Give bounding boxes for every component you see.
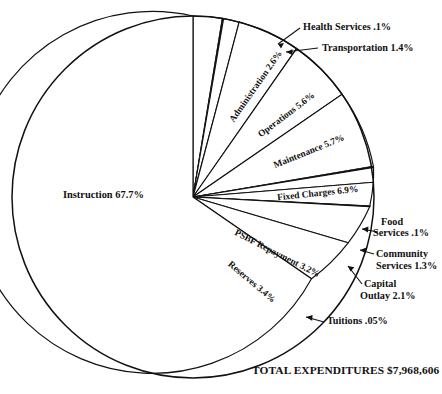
- callout-label-tuitions: Tuitions .05%: [327, 315, 388, 327]
- callout-label-food-services-line1: Food: [381, 216, 403, 228]
- callout-label-transportation: Transportation 1.4%: [322, 42, 414, 54]
- arrowhead-food-services: [362, 227, 368, 233]
- callout-label-food-services-line2: Services .1%: [373, 227, 429, 239]
- arrowhead-community-services: [360, 248, 366, 254]
- callout-label-health-services: Health Services .1%: [303, 21, 391, 33]
- total-expenditures-label: TOTAL EXPENDITURES $7,968,606: [252, 364, 439, 376]
- callout-label-community-services-line1: Community: [376, 248, 428, 260]
- callout-label-capital-outlay-line1: Capital: [364, 278, 396, 290]
- callout-label-community-services-line2: Services 1.3%: [376, 260, 437, 272]
- pie-label-instruction: Instruction 67.7%: [63, 189, 144, 200]
- leader-line-health-services: [278, 28, 300, 44]
- pie-chart-expenditures: Administration 2.6% Operations 5.6% Main…: [0, 0, 442, 394]
- callout-label-capital-outlay-line2: Outlay 2.1%: [360, 290, 415, 302]
